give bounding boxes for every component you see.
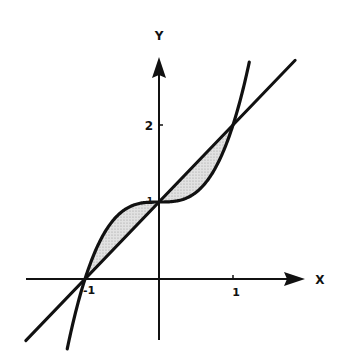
y-tick-label-1: 1 bbox=[147, 196, 153, 206]
x-axis-label: X bbox=[315, 273, 325, 287]
x-tick-label-1: 1 bbox=[232, 286, 240, 299]
y-axis-label: Y bbox=[154, 29, 164, 43]
y-tick-label-2: 2 bbox=[145, 119, 153, 133]
graph-diagram: Y X -1 1 2 1 bbox=[0, 0, 337, 362]
x-axis-arrow-icon bbox=[284, 272, 305, 286]
y-axis-arrow-icon bbox=[152, 57, 166, 78]
x-tick-label-neg1: -1 bbox=[83, 284, 95, 297]
